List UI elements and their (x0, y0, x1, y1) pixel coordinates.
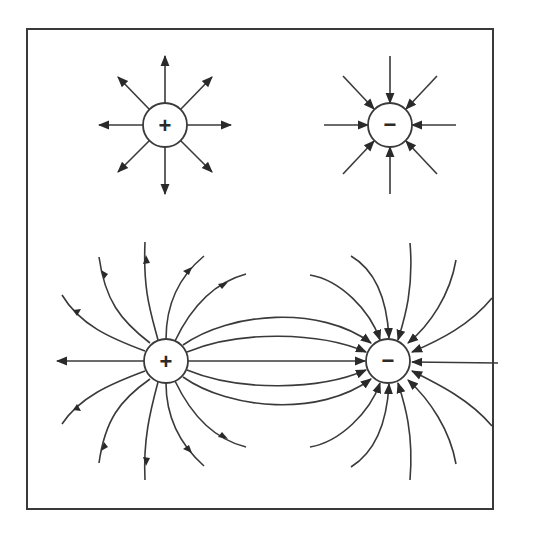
dipole-negative-sign: − (382, 348, 395, 373)
connecting-field-lines (183, 317, 371, 404)
figure-frame (27, 29, 493, 509)
dipole-positive-sign: + (160, 349, 173, 374)
isolated-positive-charge: + (99, 56, 231, 194)
field-lines-diagram: + − (0, 0, 557, 534)
negative-sign: − (384, 112, 397, 137)
dipole: + − (57, 242, 498, 480)
positive-sign: + (159, 113, 172, 138)
isolated-negative-charge: − (324, 56, 456, 194)
